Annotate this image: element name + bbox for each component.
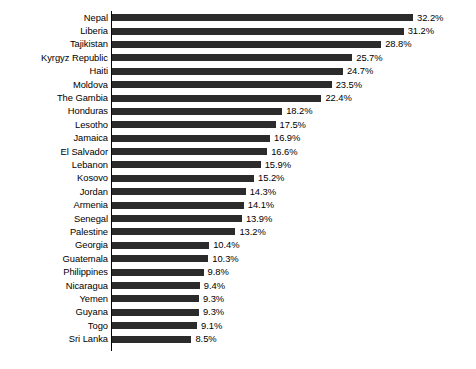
bar-row: Tajikistan28.8% [0,38,476,51]
bar-value-label: 15.9% [265,160,291,170]
bar-track: 13.2% [112,225,476,238]
bar-row: Liberia31.2% [0,24,476,37]
bar-value-label: 13.2% [239,227,265,237]
bar-row: Haiti24.7% [0,65,476,78]
bar-row: Georgia10.4% [0,239,476,252]
bar-row: Palestine13.2% [0,225,476,238]
bar-row: Armenia14.1% [0,198,476,211]
category-label: Tajikistan [0,39,108,49]
bar-row: Jamaica16.9% [0,132,476,145]
bar-row: Moldova23.5% [0,78,476,91]
bar [112,336,191,343]
bar-row: Sri Lanka8.5% [0,332,476,345]
bar [112,322,197,329]
bar-value-label: 15.2% [258,173,284,183]
bar [112,148,267,155]
bar-row: Philippines9.8% [0,265,476,278]
category-label: El Salvador [0,147,108,157]
bar-track: 10.3% [112,252,476,265]
bar-row: Jordan14.3% [0,185,476,198]
bar-track: 9.8% [112,265,476,278]
bar-row: Kosovo15.2% [0,172,476,185]
bar-value-label: 18.2% [286,106,312,116]
category-label: Palestine [0,227,108,237]
bar-track: 24.7% [112,65,476,78]
bar-value-label: 14.1% [248,200,274,210]
bar-track: 10.4% [112,239,476,252]
category-label: Yemen [0,294,108,304]
bar [112,175,254,182]
bar-track: 32.2% [112,11,476,24]
bar [112,28,404,35]
bar-track: 9.1% [112,319,476,332]
bar [112,269,204,276]
category-label: Jamaica [0,133,108,143]
bar-row: Guyana9.3% [0,306,476,319]
bar [112,135,270,142]
bar-track: 31.2% [112,24,476,37]
bar-value-label: 10.4% [213,240,239,250]
bar-value-label: 31.2% [408,26,434,36]
bar-value-label: 9.3% [203,307,224,317]
bar-row: Honduras18.2% [0,105,476,118]
bar-row: Togo9.1% [0,319,476,332]
category-label: Moldova [0,80,108,90]
bar [112,14,413,21]
bar-value-label: 8.5% [195,334,216,344]
bar-value-label: 25.7% [356,53,382,63]
category-label: Togo [0,321,108,331]
horizontal-bar-chart: Nepal32.2%Liberia31.2%Tajikistan28.8%Kyr… [0,0,476,369]
bar-track: 17.5% [112,118,476,131]
bar-track: 22.4% [112,91,476,104]
bar-value-label: 9.1% [201,321,222,331]
category-label: Nicaragua [0,281,108,291]
bar-track: 25.7% [112,51,476,64]
bar [112,41,381,48]
bar-track: 16.6% [112,145,476,158]
category-label: Georgia [0,240,108,250]
bar [112,255,208,262]
bar-value-label: 17.5% [280,120,306,130]
bar [112,95,321,102]
category-label: Sri Lanka [0,334,108,344]
bar [112,228,235,235]
bar-row: El Salvador16.6% [0,145,476,158]
bar-value-label: 28.8% [385,39,411,49]
category-label: The Gambia [0,93,108,103]
bar-value-label: 22.4% [325,93,351,103]
bar-row: Nicaragua9.4% [0,279,476,292]
bar-row: Senegal13.9% [0,212,476,225]
bar-value-label: 16.6% [271,147,297,157]
category-label: Senegal [0,214,108,224]
bar [112,202,244,209]
bar-value-label: 23.5% [336,80,362,90]
bar-value-label: 9.8% [208,267,229,277]
bar-row: Lebanon15.9% [0,158,476,171]
bar-row: The Gambia22.4% [0,91,476,104]
category-label: Guyana [0,307,108,317]
category-label: Nepal [0,13,108,23]
bar-value-label: 24.7% [347,66,373,76]
bar-value-label: 13.9% [246,214,272,224]
bar-row: Yemen9.3% [0,292,476,305]
bar [112,309,199,316]
bar-track: 14.1% [112,198,476,211]
bar-row: Guatemala10.3% [0,252,476,265]
bar-track: 18.2% [112,105,476,118]
category-label: Jordan [0,187,108,197]
bar-track: 23.5% [112,78,476,91]
category-label: Honduras [0,106,108,116]
category-label: Kosovo [0,173,108,183]
bar [112,161,261,168]
bar-value-label: 32.2% [417,13,443,23]
bar-track: 15.9% [112,158,476,171]
category-label: Haiti [0,66,108,76]
bar [112,188,246,195]
bar-row: Kyrgyz Republic25.7% [0,51,476,64]
bar [112,54,352,61]
bar [112,68,343,75]
category-label: Lebanon [0,160,108,170]
bar-value-label: 10.3% [212,254,238,264]
category-label: Guatemala [0,254,108,264]
category-label: Armenia [0,200,108,210]
